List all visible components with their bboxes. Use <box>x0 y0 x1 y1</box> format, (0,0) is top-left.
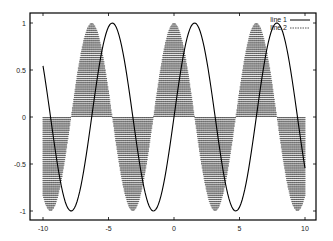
x-tick-label: -5 <box>105 225 111 232</box>
y-tick-label: -0.5 <box>14 161 26 168</box>
legend-label-line-2: line 2 <box>270 24 287 31</box>
legend: line 1 line 2 <box>270 16 310 31</box>
y-tick-label: 0.5 <box>16 67 26 74</box>
y-tick-label: 1 <box>22 20 26 27</box>
x-tick-label: 0 <box>172 225 176 232</box>
sin-cos-chart: -10-50510 -1-0.500.51 line 1 line 2 <box>0 0 333 241</box>
legend-label-line-1: line 1 <box>270 16 287 23</box>
y-tick-label: -1 <box>20 208 26 215</box>
x-tick-label: 10 <box>301 225 309 232</box>
y-tick-label: 0 <box>22 114 26 121</box>
x-tick-label: 5 <box>238 225 242 232</box>
x-tick-label: -10 <box>38 225 48 232</box>
